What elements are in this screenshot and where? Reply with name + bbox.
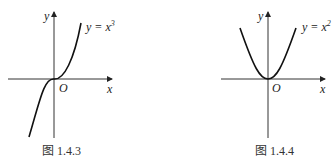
origin-label: O <box>272 82 281 94</box>
x-axis-label: x <box>107 83 112 95</box>
x-axis-label: x <box>320 83 325 95</box>
figure-cubic: y y = x3 O x 图 1.4.3 <box>0 0 168 165</box>
figure-quadratic: y y = x2 O x 图 1.4.4 <box>168 0 336 165</box>
function-label: y = x3 <box>86 20 115 33</box>
origin-label: O <box>59 82 68 94</box>
function-label: y = x2 <box>302 20 331 33</box>
cubic-curve <box>29 23 81 137</box>
figure-caption: 图 1.4.4 <box>255 141 294 159</box>
y-axis-label: y <box>44 10 49 22</box>
cubic-plot <box>0 0 168 165</box>
y-axis-label: y <box>258 10 263 22</box>
figure-caption: 图 1.4.3 <box>42 141 81 159</box>
